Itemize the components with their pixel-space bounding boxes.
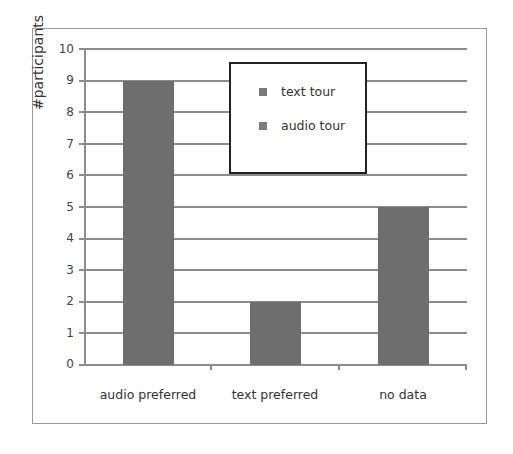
legend-item-audio-tour: audio tour [259, 118, 345, 133]
y-axis [84, 49, 86, 365]
bar-audio-preferred [123, 81, 174, 365]
y-tick-label: 2 [54, 294, 74, 308]
x-tick [465, 365, 467, 370]
y-tick-label: 6 [54, 168, 74, 182]
x-category-label: no data [343, 387, 463, 402]
y-tick-label: 10 [54, 42, 74, 56]
y-tick [79, 80, 84, 82]
legend-swatch-icon [259, 122, 267, 130]
y-tick [79, 364, 84, 366]
legend-label: text tour [281, 84, 335, 99]
x-tick [210, 365, 212, 370]
bar-no-data [378, 207, 429, 365]
legend: text tour audio tour [229, 62, 367, 174]
y-tick-label: 3 [54, 263, 74, 277]
y-tick-label: 0 [54, 357, 74, 371]
x-tick [338, 365, 340, 370]
legend-label: audio tour [281, 118, 345, 133]
y-tick [79, 174, 84, 176]
y-tick-label: 7 [54, 137, 74, 151]
y-tick [79, 206, 84, 208]
y-tick [79, 332, 84, 334]
y-tick [79, 238, 84, 240]
x-category-label: audio preferred [88, 387, 208, 402]
y-tick-label: 1 [54, 326, 74, 340]
y-tick-label: 5 [54, 200, 74, 214]
y-axis-title: #participants [30, 15, 46, 110]
y-tick [79, 111, 84, 113]
y-tick [79, 48, 84, 50]
y-tick-label: 4 [54, 231, 74, 245]
y-tick-label: 9 [54, 73, 74, 87]
y-tick [79, 143, 84, 145]
bar-text-preferred [250, 302, 301, 365]
x-category-label: text preferred [215, 387, 335, 402]
gridline-10 [84, 48, 467, 50]
y-tick [79, 269, 84, 271]
legend-item-text-tour: text tour [259, 84, 335, 99]
y-tick-label: 8 [54, 105, 74, 119]
y-tick [79, 301, 84, 303]
legend-swatch-icon [259, 88, 267, 96]
